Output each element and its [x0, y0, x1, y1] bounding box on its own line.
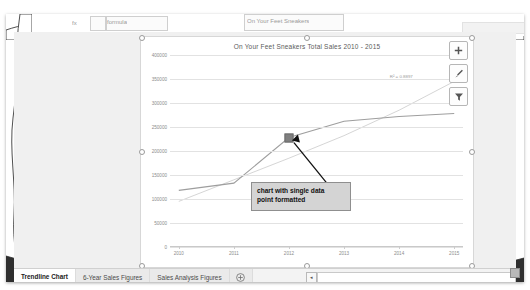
x-axis-tick-label: 2013: [339, 251, 349, 256]
scroll-left-arrow-icon[interactable]: ◂: [306, 272, 317, 283]
chart-title: On Your Feet Sneakers Total Sales 2010 -…: [141, 43, 473, 50]
chart-styles-button[interactable]: [449, 64, 468, 83]
y-axis-tick-label: 0: [164, 245, 167, 250]
fragment-title: On Your Feet Sneakers: [247, 18, 309, 26]
chart-object[interactable]: On Your Feet Sneakers Total Sales 2010 -…: [140, 36, 474, 268]
gridline: [170, 247, 463, 248]
x-axis-tick-label: 2014: [394, 251, 404, 256]
x-axis-tick: [344, 247, 345, 249]
y-axis-tick-label: 400000: [152, 53, 167, 58]
chart-filters-button[interactable]: [449, 87, 468, 106]
selection-handle-tr[interactable]: [469, 35, 475, 41]
add-sheet-button[interactable]: [230, 269, 253, 282]
y-axis-tick-label: 150000: [152, 173, 167, 178]
annotation-leader-arrow: [170, 55, 463, 247]
selection-handle-mr[interactable]: [469, 149, 475, 155]
resize-corner[interactable]: [510, 268, 520, 278]
selection-handle-tl[interactable]: [139, 35, 145, 41]
fragment-fx: fx: [72, 20, 77, 28]
sheet-tab-bar[interactable]: Trendline Chart 6-Year Sales Figures Sal…: [14, 268, 516, 282]
y-axis-tick-label: 200000: [152, 149, 167, 154]
scroll-track[interactable]: [317, 272, 516, 283]
x-axis-tick: [234, 247, 235, 249]
x-axis-tick-label: 2012: [284, 251, 294, 256]
y-axis-tick-label: 50000: [154, 221, 167, 226]
y-axis-tick-label: 250000: [152, 125, 167, 130]
sheet-tab-6-year-sales-figures[interactable]: 6-Year Sales Figures: [76, 269, 150, 282]
paper-sheet: fx formula On Your Feet Sneakers On Your…: [6, 14, 524, 282]
fragment-formula: formula: [107, 19, 127, 27]
selection-handle-ml[interactable]: [139, 149, 145, 155]
chart-plot-area[interactable]: 0500001000001500002000002500003000003500…: [170, 55, 463, 247]
funnel-icon: [454, 92, 464, 102]
horizontal-scrollbar[interactable]: ◂: [306, 269, 516, 282]
x-axis-tick: [179, 247, 180, 249]
worksheet-area[interactable]: On Your Feet Sneakers Total Sales 2010 -…: [14, 32, 516, 268]
annotation-callout[interactable]: chart with single data point formatted: [251, 182, 351, 211]
x-axis-tick: [454, 247, 455, 249]
screenshot-root: fx formula On Your Feet Sneakers On Your…: [0, 0, 530, 290]
y-axis-tick-label: 350000: [152, 77, 167, 82]
annotation-line-2: point formatted: [257, 196, 345, 205]
chart-side-buttons[interactable]: [449, 41, 469, 110]
annotation-line-1: chart with single data: [257, 187, 345, 196]
plus-icon: [454, 46, 463, 55]
formula-fx-box: [90, 16, 106, 31]
y-axis-tick-label: 100000: [152, 197, 167, 202]
sheet-tab-sales-analysis-figures[interactable]: Sales Analysis Figures: [150, 269, 229, 282]
selection-handle-tc[interactable]: [304, 35, 310, 41]
x-axis-tick-label: 2015: [449, 251, 459, 256]
x-axis-tick-label: 2010: [174, 251, 184, 256]
plus-circle-icon: [236, 273, 245, 282]
chart-elements-button[interactable]: [449, 41, 468, 60]
y-axis-tick-label: 300000: [152, 101, 167, 106]
sheet-tab-trendline-chart[interactable]: Trendline Chart: [14, 269, 76, 282]
tab-bar-spacer: [253, 269, 306, 282]
x-axis-tick: [289, 247, 290, 249]
brush-icon: [454, 69, 464, 79]
x-axis-tick: [399, 247, 400, 249]
x-axis-tick-label: 2011: [229, 251, 239, 256]
